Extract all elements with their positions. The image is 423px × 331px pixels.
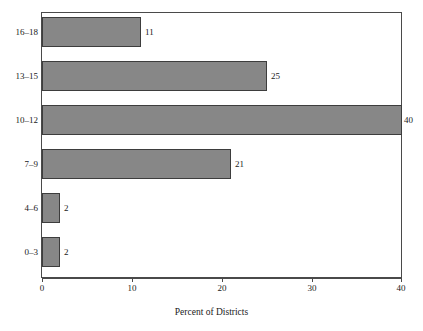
bar-value-label: 2 [64,204,69,213]
x-axis-tick [222,278,223,282]
bar-rect[interactable] [42,237,60,267]
y-axis-tick-label: 4–6 [25,193,39,223]
x-axis-title: Percent of Districts [0,308,423,318]
bar-rect[interactable] [42,149,231,179]
bar-rect[interactable] [42,193,60,223]
y-axis-tick-label: 7–9 [25,149,39,179]
bar-value-label: 25 [271,72,280,81]
bar-row: 2 [42,193,402,223]
bar-row: 11 [42,17,402,47]
y-axis-tick-label: 16–18 [16,17,39,47]
y-axis-tick-label: 10–12 [16,105,39,135]
bar-value-label: 11 [145,28,154,37]
x-axis-tick-label: 40 [397,284,406,293]
x-axis-tick-label: 20 [218,284,227,293]
y-axis-tick-label: 13–15 [16,61,39,91]
x-axis-line: 0 10 20 30 40 [42,278,402,279]
bar-value-label: 2 [64,248,69,257]
x-axis-tick-label: 10 [128,284,137,293]
x-axis-tick-label: 0 [40,284,45,293]
bar-value-label: 21 [235,160,244,169]
bars-layer: 11 25 40 21 2 2 [42,13,402,278]
bar-row: 25 [42,61,402,91]
bar-chart: 16–18 13–15 10–12 7–9 4–6 0–3 11 25 40 2… [0,0,423,331]
y-axis-labels: 16–18 13–15 10–12 7–9 4–6 0–3 [0,13,38,278]
bar-value-label: 40 [404,116,413,125]
bar-row: 40 [42,105,402,135]
x-axis-tick [132,278,133,282]
bar-row: 2 [42,237,402,267]
x-axis-tick-label: 30 [308,284,317,293]
x-axis-tick [42,278,43,282]
x-axis-tick [312,278,313,282]
bar-row: 21 [42,149,402,179]
bar-rect[interactable] [42,105,402,135]
x-axis-tick [401,278,402,282]
y-axis-tick-label: 0–3 [25,237,39,267]
bar-rect[interactable] [42,17,141,47]
bar-rect[interactable] [42,61,267,91]
